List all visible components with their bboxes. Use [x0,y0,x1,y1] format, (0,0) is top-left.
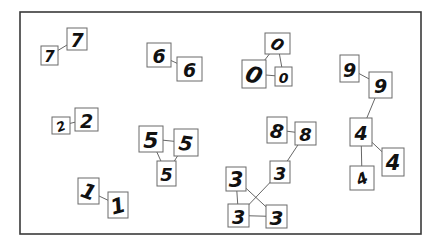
digit-node-3a: 3 [270,161,290,184]
digit-node-5b: 5 [174,129,198,156]
digit-glyph: 5 [160,164,173,185]
digit-node-4c: 4 [350,166,374,190]
digit-node-3c: 3 [228,204,249,228]
digit-node-0b: 0 [242,60,266,90]
digit-node-8a: 8 [267,117,287,143]
digit-glyph: 7 [70,29,84,51]
digit-node-7b: 7 [67,28,87,51]
digit-glyph: 5 [143,128,158,153]
digit-cluster-diagram: 7766000994442255588333311 [0,0,439,248]
digit-glyph: 0 [279,70,289,86]
node-layer: 7766000994442255588333311 [41,28,404,230]
digit-glyph: 4 [385,151,401,175]
digit-glyph: 3 [229,168,244,192]
digit-node-9b: 9 [369,72,392,98]
digit-glyph: 9 [374,75,387,97]
digit-node-1b: 1 [108,192,128,219]
digit-node-2b: 2 [75,108,98,132]
digit-glyph: 9 [343,59,356,81]
digit-node-6b: 6 [177,57,202,81]
digit-node-0c: 0 [275,67,292,86]
digit-node-9a: 9 [340,55,359,82]
digit-glyph: 3 [274,163,287,184]
digit-glyph: 3 [270,206,284,230]
digit-node-2a: 2 [52,117,70,135]
digit-node-3b: 3 [226,167,246,192]
digit-glyph: 6 [152,45,165,67]
digit-node-5c: 5 [157,161,176,186]
digit-node-7a: 7 [41,46,58,66]
digit-glyph: 6 [183,59,196,81]
digit-node-6a: 6 [147,43,171,67]
digit-glyph: 3 [232,206,245,228]
digit-glyph: 8 [299,124,312,145]
digit-node-0a: 0 [265,33,290,56]
digit-node-3d: 3 [266,205,287,230]
digit-node-4a: 4 [350,118,372,146]
digit-node-8b: 8 [295,122,316,145]
digit-node-1a: 1 [78,178,100,206]
digit-glyph: 4 [353,122,367,144]
digit-glyph: 7 [44,48,55,66]
digit-glyph: 2 [80,110,93,132]
digit-node-5a: 5 [139,126,163,153]
digit-node-4b: 4 [382,148,404,176]
